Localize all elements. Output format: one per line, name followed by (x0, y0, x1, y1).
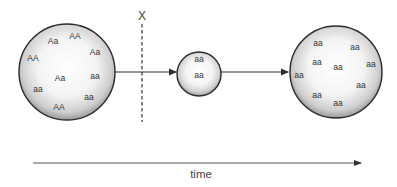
allele-label: aa (294, 70, 304, 80)
allele-label: aa (312, 90, 322, 100)
allele-label: aa (333, 98, 343, 108)
allele-label: aa (84, 92, 94, 102)
allele-label: aa (313, 38, 323, 48)
allele-label: Aa (90, 47, 101, 57)
allele-label: Aa (48, 36, 59, 46)
original-population-circle (19, 24, 115, 120)
allele-label: aa (90, 71, 100, 81)
allele-label: aa (194, 54, 204, 64)
allele-label: aa (312, 57, 322, 67)
allele-label: aa (366, 59, 376, 69)
bottleneck-marker-label: X (138, 9, 146, 23)
allele-label: aa (356, 80, 366, 90)
allele-label: AA (53, 102, 65, 112)
time-axis-label: time (190, 168, 212, 180)
allele-label: AA (69, 31, 81, 41)
allele-label: aa (33, 84, 43, 94)
allele-label: AA (27, 53, 39, 63)
allele-label: aa (333, 62, 343, 72)
bottleneck-diagram: X AaAAAAAaAaaaaaaaAAaaaaaaaaaaaaaaaaaaaa… (0, 0, 397, 187)
allele-label: aa (194, 70, 204, 80)
allele-label: aa (350, 42, 360, 52)
allele-label: Aa (55, 73, 66, 83)
